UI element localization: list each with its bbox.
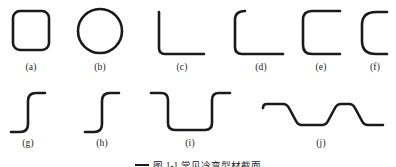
profile-shape-f-lipped-channel-section — [362, 12, 387, 54]
caption-rule — [135, 164, 149, 167]
profile-label-a: (a) — [11, 62, 51, 72]
caption-text: 图 1-1 常见冷弯型材截面 — [153, 161, 260, 167]
profile-label-h: (h) — [82, 138, 122, 148]
profile-shape-b-circular-tube — [78, 9, 122, 53]
profile-shape-c-angle-section — [159, 12, 204, 54]
profile-shape-h-z-section-narrow — [85, 93, 119, 132]
profile-label-d: (d) — [241, 62, 281, 72]
profile-shape-i-hat-section — [151, 93, 230, 130]
profile-label-c: (c) — [162, 62, 202, 72]
profile-label-b: (b) — [80, 62, 120, 72]
profile-shape-j-corrugated-sheet — [263, 104, 383, 125]
profile-shape-d-lipped-angle-section — [235, 11, 283, 54]
profile-label-j: (j) — [301, 138, 341, 148]
profile-label-e: (e) — [301, 62, 341, 72]
profile-shape-g-z-section — [11, 93, 45, 132]
figure-caption: 图 1-1 常见冷弯型材截面 — [0, 158, 396, 167]
profile-label-g: (g) — [8, 138, 48, 148]
profile-shape-a-rounded-rectangular-tube — [13, 11, 49, 50]
profile-label-f: (f) — [355, 62, 395, 72]
profile-shape-e-channel-section — [303, 11, 340, 54]
profile-label-i: (i) — [170, 138, 210, 148]
